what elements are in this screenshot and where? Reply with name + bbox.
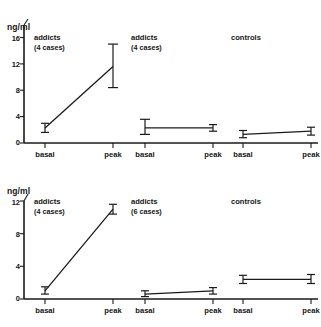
x-axis-label-g1-peak-bottom: peak <box>104 306 121 315</box>
x-axis-label-g2-basal-bottom: basal <box>135 306 154 315</box>
series-addicts-1-bottom <box>41 204 117 294</box>
series-controls-bottom <box>239 275 315 284</box>
series-addicts-2-bottom <box>141 288 217 297</box>
x-axis-label-g2-peak-top: peak <box>204 150 221 159</box>
plot-area-bottom <box>0 164 321 327</box>
series-addicts-1-top <box>41 44 118 132</box>
x-axis-label-g3-peak-bottom: peak <box>302 306 319 315</box>
chart-panel-top: ng/ml 16 12 8 4 0 addicts (4 cases) addi… <box>0 0 321 163</box>
x-axis-label-g1-basal-top: basal <box>35 150 54 159</box>
x-axis-label-g1-peak-top: peak <box>104 150 121 159</box>
plot-svg-bottom <box>0 164 321 327</box>
y-axis-tip-top <box>24 19 28 25</box>
series-addicts-2-top <box>140 119 217 134</box>
series-line <box>45 209 113 291</box>
x-axis-label-g3-basal-top: basal <box>233 150 252 159</box>
series-line <box>243 131 311 134</box>
y-axis-tip-bottom <box>24 194 28 201</box>
chart-panel-bottom: ng/ml 12 8 4 0 addicts (4 cases) addicts… <box>0 164 321 327</box>
plot-svg-top <box>0 0 321 163</box>
x-axis-label-g2-peak-bottom: peak <box>204 306 221 315</box>
plot-area-top <box>0 0 321 163</box>
x-axis-label-g3-peak-top: peak <box>302 150 319 159</box>
x-axis-label-g1-basal-bottom: basal <box>35 306 54 315</box>
x-axis-label-g3-basal-bottom: basal <box>233 306 252 315</box>
series-controls-top <box>239 127 315 138</box>
series-line <box>45 67 113 128</box>
series-line <box>145 291 213 294</box>
x-axis-label-g2-basal-top: basal <box>135 150 154 159</box>
